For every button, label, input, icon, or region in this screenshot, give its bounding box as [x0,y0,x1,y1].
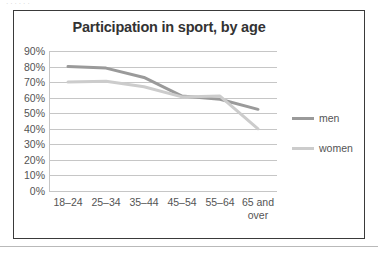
page-top-text-sliver: · · · · · · [6,0,126,6]
y-tick-label: 10% [24,170,45,181]
y-tick-label: 50% [24,108,45,119]
chart-figure-frame: Participation in sport, by age 90%80%70%… [13,10,365,239]
y-tick-label: 40% [24,124,45,135]
legend-swatch-men [292,117,314,120]
y-tick-label: 60% [24,92,45,103]
y-tick-label: 20% [24,155,45,166]
series-line-women [68,81,258,128]
legend-item-men[interactable]: men [292,111,362,125]
gridline-0pct [49,191,277,192]
y-tick-label: 80% [24,61,45,72]
legend-label-men: men [319,113,339,124]
x-tick-label-line: over [235,209,281,222]
legend-label-women: women [319,143,353,154]
chart-title: Participation in sport, by age [44,19,294,35]
y-tick-label: 90% [24,46,45,57]
plot-area: 90%80%70%60%50%40%30%20%10%0% 18–2425–34… [49,51,277,191]
x-tick-label: 65 andover [235,196,281,221]
y-tick-label: 30% [24,139,45,150]
series-lines [49,51,277,191]
page-bottom-rule [0,246,378,247]
chart-legend: menwomen [292,111,362,171]
x-tick-label-line: 65 and [235,196,281,209]
y-tick-label: 0% [30,186,45,197]
legend-swatch-women [292,147,314,150]
y-tick-label: 70% [24,77,45,88]
legend-item-women[interactable]: women [292,141,362,155]
